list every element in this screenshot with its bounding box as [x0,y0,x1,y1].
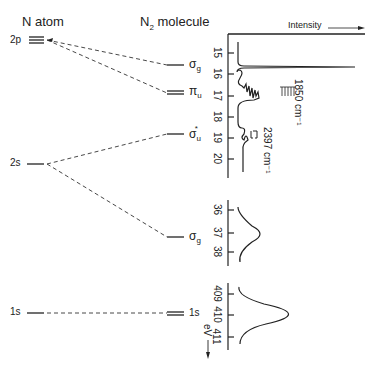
tick-20: 20 [212,153,223,164]
tick-17: 17 [212,90,223,101]
mo-label-pi-u: πu [189,84,202,100]
tick-411: 411 [211,329,222,345]
tick-410: 410 [212,306,223,323]
annotation-2397: 2397 cm⁻¹ [262,127,273,174]
atom-level-2p: 2p [10,34,21,45]
tick-18: 18 [212,111,223,122]
tick-409: 409 [212,285,223,302]
tick-15: 15 [212,47,223,58]
tick-19: 19 [212,132,223,143]
annotation-1850: 1850 cm⁻¹ [293,79,304,126]
mo-label-sigma-u-star: σu* [189,126,204,143]
tick-36: 36 [212,204,223,215]
unit-ev: eV [202,324,213,336]
tick-16: 16 [212,68,223,79]
tick-37: 37 [212,227,223,238]
atom-level-1s: 1s [10,306,21,317]
atom-level-2s: 2s [10,157,21,168]
energy-level-diagram [0,0,373,365]
mo-label-sigma-g-upper: σg [189,57,201,73]
mo-label-1s: 1s [189,307,200,318]
mo-label-sigma-g-lower: σg [189,229,201,245]
tick-38: 38 [212,246,223,257]
